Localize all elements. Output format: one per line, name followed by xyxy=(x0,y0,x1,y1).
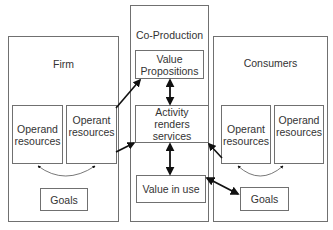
arrows-layer xyxy=(0,0,333,230)
curve-consumer-resources xyxy=(238,166,283,176)
arrow-value-in-use-goals xyxy=(207,178,238,194)
arrow-firm-to-activity xyxy=(116,143,134,152)
arrow-firm-to-value-propositions xyxy=(116,80,140,108)
curve-firm-resources xyxy=(38,166,95,176)
arrow-consumer-to-activity xyxy=(209,144,222,158)
